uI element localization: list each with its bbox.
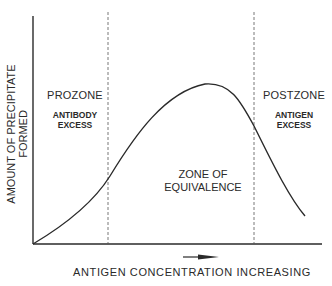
equivalence-label: ZONE OF EQUIVALENCE	[148, 168, 258, 193]
postzone-sub-label: ANTIGEN EXCESS	[264, 111, 324, 131]
postzone-label: POSTZONE	[261, 89, 327, 102]
x-axis-label: ANTIGEN CONCENTRATION INCREASING	[62, 266, 322, 279]
equivalence-line2: EQUIVALENCE	[148, 181, 258, 194]
prozone-sub-line2: EXCESS	[47, 121, 103, 131]
prozone-sub-label: ANTIBODY EXCESS	[47, 111, 103, 131]
precipitin-curve	[33, 84, 305, 244]
equivalence-line1: ZONE OF	[148, 168, 258, 181]
y-axis-label-line2: FORMED	[17, 54, 29, 214]
postzone-sub-line2: EXCESS	[264, 121, 324, 131]
y-axis-label-line1: AMOUNT OF PRECIPITATE	[5, 54, 17, 214]
chart-canvas	[0, 0, 332, 286]
prozone-label: PROZONE	[47, 89, 103, 102]
y-axis-label: AMOUNT OF PRECIPITATE FORMED	[5, 54, 33, 214]
direction-arrow-icon	[183, 255, 219, 260]
